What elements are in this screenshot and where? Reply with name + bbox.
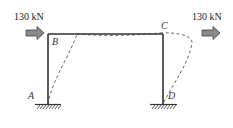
load-label-left: 130 kN <box>14 12 44 22</box>
deflected-right-column <box>160 33 192 104</box>
node-label-c: C <box>161 21 168 31</box>
node-label-d: D <box>168 91 175 101</box>
portal-frame-diagram: 130 kN 130 kN B C A D <box>0 0 233 128</box>
load-arrow-left-icon <box>26 27 44 40</box>
node-label-a: A <box>28 91 34 101</box>
frame <box>48 34 163 104</box>
load-arrow-right-icon <box>202 27 220 40</box>
load-label-right: 130 kN <box>192 12 222 22</box>
fixed-support-a-icon <box>35 105 61 110</box>
node-label-b: B <box>52 37 58 47</box>
fixed-support-d-icon <box>150 105 177 110</box>
